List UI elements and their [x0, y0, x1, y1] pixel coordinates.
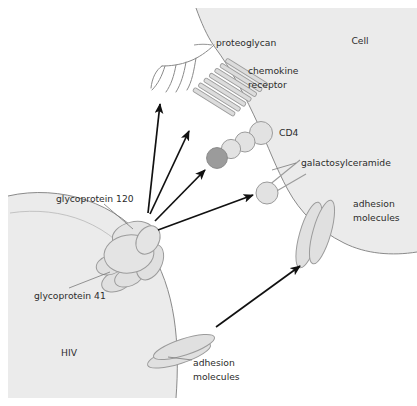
- label-glycoprotein-120: glycoprotein 120: [56, 193, 134, 204]
- label-adhesion-molecules-virus-line1: adhesion: [193, 357, 235, 368]
- arrow-to-cd4: [155, 170, 205, 221]
- label-adhesion-molecules-cell-line2: molecules: [353, 212, 400, 223]
- label-cell: Cell: [351, 35, 368, 46]
- label-hiv: HIV: [61, 347, 78, 358]
- cd4-domain-d4-highlight: [207, 148, 228, 169]
- leader-proteoglycan: [194, 44, 212, 45]
- label-galactosylceramide: galactosylceramide: [301, 157, 391, 168]
- label-chemokine-receptor-line2: receptor: [248, 79, 287, 90]
- hiv-cell-binding-diagram: Cell HIV proteoglycan chemokine receptor…: [0, 0, 417, 406]
- arrow-to-adhesion-molecules: [216, 266, 300, 327]
- label-glycoprotein-41: glycoprotein 41: [34, 290, 106, 301]
- label-proteoglycan: proteoglycan: [216, 37, 276, 48]
- label-chemokine-receptor-line1: chemokine: [248, 65, 299, 76]
- cd4-molecule: [207, 122, 273, 169]
- label-cd4: CD4: [279, 127, 298, 138]
- label-adhesion-molecules-virus-line2: molecules: [193, 371, 240, 382]
- galactosylceramide-head: [256, 182, 278, 204]
- arrow-to-galactosylceramide: [158, 195, 253, 230]
- diagram-root: Cell HIV proteoglycan chemokine receptor…: [0, 0, 417, 406]
- label-adhesion-molecules-cell-line1: adhesion: [353, 198, 395, 209]
